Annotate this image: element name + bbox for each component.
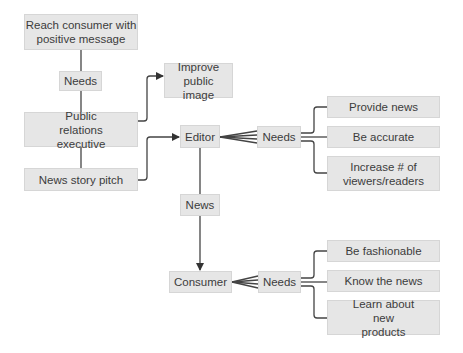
node-be-fashionable: Be fashionable — [327, 240, 440, 262]
node-be-accurate: Be accurate — [327, 126, 440, 148]
node-needs-top: Needs — [59, 71, 102, 91]
node-pr-executive: Public relations executive — [24, 112, 138, 147]
node-know-news: Know the news — [327, 270, 440, 292]
node-news: News — [180, 194, 220, 216]
node-editor-needs: Needs — [257, 126, 301, 148]
node-learn-products: Learn about new products — [327, 300, 440, 335]
node-consumer-needs: Needs — [258, 271, 301, 293]
node-consumer: Consumer — [169, 271, 232, 293]
node-editor: Editor — [180, 125, 220, 148]
node-increase-viewers: Increase # of viewers/readers — [327, 156, 440, 191]
node-news-story-pitch: News story pitch — [24, 168, 138, 191]
node-provide-news: Provide news — [327, 96, 440, 118]
node-improve-image: Improve public image — [164, 63, 233, 98]
node-reach-consumer: Reach consumer with positive message — [24, 14, 138, 50]
